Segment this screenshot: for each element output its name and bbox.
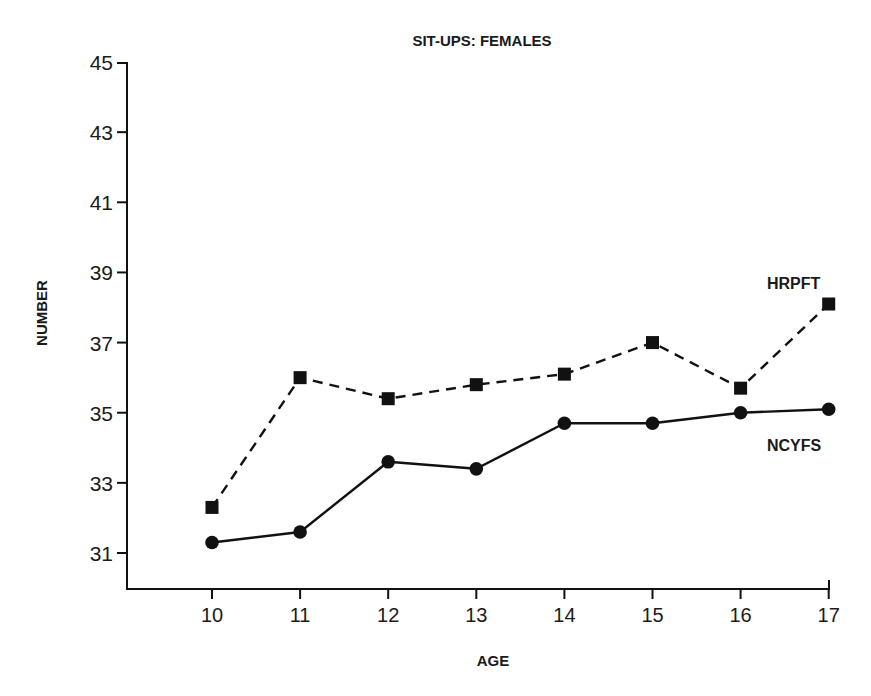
data-point-circle [293, 525, 307, 539]
data-point-circle [734, 406, 748, 420]
y-tick-label: 43 [90, 121, 113, 144]
series-label-ncyfs: NCYFS [767, 437, 822, 454]
x-tick-label: 15 [641, 604, 663, 626]
data-point-square [646, 336, 659, 349]
x-axis-ticks: 1011121314151617 [201, 589, 840, 626]
x-axis-label: AGE [477, 652, 510, 669]
x-tick-label: 16 [729, 604, 751, 626]
series-ncyfs [205, 402, 835, 549]
y-tick-label: 33 [90, 472, 113, 495]
axes [117, 63, 829, 589]
x-tick-label: 10 [201, 604, 223, 626]
y-tick-label: 31 [90, 542, 113, 565]
x-tick-label: 11 [290, 604, 311, 626]
chart-title: SIT-UPS: FEMALES [412, 32, 551, 49]
x-tick-label: 14 [553, 604, 575, 626]
y-tick-label: 45 [90, 51, 113, 74]
data-point-circle [822, 402, 836, 416]
data-point-circle [470, 462, 484, 476]
series-layer [205, 298, 835, 550]
data-point-square [822, 298, 835, 311]
y-tick-label: 41 [90, 191, 113, 214]
data-point-square [294, 371, 307, 384]
y-tick-label: 35 [90, 402, 113, 425]
data-point-circle [558, 416, 572, 430]
data-point-square [558, 368, 571, 381]
series-label-hrpft: HRPFT [767, 275, 821, 292]
data-point-circle [646, 416, 660, 430]
data-point-square [382, 392, 395, 405]
line-chart: SIT-UPS: FEMALES NUMBER AGE 313335373941… [0, 0, 871, 696]
y-tick-label: 37 [90, 332, 113, 355]
data-point-square [470, 378, 483, 391]
data-point-square [734, 382, 747, 395]
x-tick-label: 13 [465, 604, 487, 626]
x-tick-label: 12 [377, 604, 399, 626]
data-point-circle [381, 455, 395, 469]
series-line [212, 304, 829, 507]
series-hrpft [206, 298, 836, 514]
y-axis-ticks: 3133353739414345 [90, 51, 127, 565]
y-tick-label: 39 [90, 261, 113, 284]
data-point-circle [205, 536, 219, 550]
y-axis-label: NUMBER [33, 280, 50, 346]
y-axis [117, 63, 829, 589]
series-line [212, 409, 829, 542]
data-point-square [206, 501, 219, 514]
x-tick-label: 17 [818, 604, 840, 626]
